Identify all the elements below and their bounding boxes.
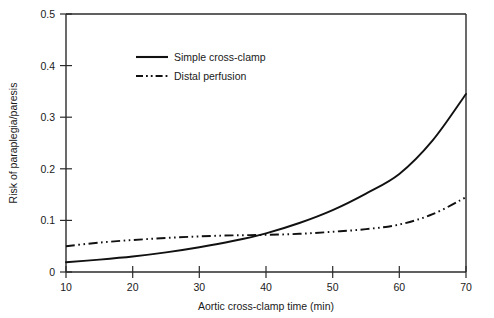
y-tick-label-5: 0.5 [40,8,55,20]
y-tick-label-3: 0.3 [40,111,55,123]
data-series-group [66,94,466,262]
x-tick-label-10: 10 [60,281,72,293]
x-axis-ticks: 10 20 30 40 50 60 70 [60,266,472,293]
series-simple-cross-clamp-line [66,94,466,262]
series-distal-perfusion-line [66,197,466,246]
y-axis-ticks: 0 0.1 0.2 0.3 0.4 0.5 [40,8,72,278]
legend: Simple cross-clamp Distal perfusion [136,51,266,82]
y-tick-label-2: 0.2 [40,163,55,175]
y-tick-label-1: 0.1 [40,214,55,226]
figure-container: 0 0.1 0.2 0.3 0.4 0.5 10 20 30 40 50 60 … [0,0,494,318]
x-tick-label-70: 70 [460,281,472,293]
y-axis-title: Risk of paraplegia/paresis [7,83,19,204]
y-tick-label-4: 0.4 [40,60,55,72]
y-tick-label-0: 0 [49,266,55,278]
legend-label-simple-cross-clamp: Simple cross-clamp [174,51,266,63]
x-tick-label-40: 40 [260,281,272,293]
x-tick-label-50: 50 [327,281,339,293]
x-tick-label-30: 30 [193,281,205,293]
x-tick-label-60: 60 [393,281,405,293]
x-tick-label-20: 20 [127,281,139,293]
x-axis-title: Aortic cross-clamp time (min) [198,300,334,312]
risk-vs-crossclamp-time-chart: 0 0.1 0.2 0.3 0.4 0.5 10 20 30 40 50 60 … [0,0,494,318]
legend-label-distal-perfusion: Distal perfusion [174,70,247,82]
